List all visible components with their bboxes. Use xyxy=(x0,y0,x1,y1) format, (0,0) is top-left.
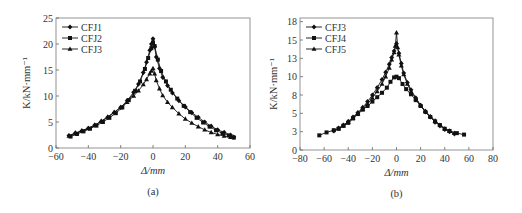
square-marker xyxy=(397,76,401,80)
chart-panel-a: −60−40−2002040600510152025Δ/mmK/kN·mm⁻¹(… xyxy=(21,13,255,199)
x-tick-label: −40 xyxy=(340,153,356,164)
y-tick-label: 0 xyxy=(292,145,297,156)
panel-label: (a) xyxy=(147,186,159,198)
panel-label: (b) xyxy=(390,188,403,200)
triangle-marker xyxy=(154,78,159,82)
y-axis-title: K/kN·mm⁻¹ xyxy=(268,58,279,110)
triangle-marker xyxy=(196,124,201,128)
square-marker xyxy=(156,58,160,62)
legend-item: CFJ3 xyxy=(62,44,102,55)
y-tick-label: 5 xyxy=(48,117,53,128)
x-tick-label: 60 xyxy=(245,151,255,162)
triangle-marker xyxy=(157,86,162,90)
x-tick-label: −20 xyxy=(113,151,129,162)
square-marker xyxy=(146,56,150,60)
legend-label: CFJ3 xyxy=(325,22,346,33)
triangle-marker xyxy=(160,93,165,97)
square-marker xyxy=(388,80,392,84)
y-tick-label: 3 xyxy=(292,126,297,137)
square-marker xyxy=(462,133,466,137)
y-tick-label: 18 xyxy=(287,16,297,27)
legend-label: CFJ2 xyxy=(81,33,102,44)
square-marker xyxy=(151,40,155,44)
y-tick-label: 10 xyxy=(287,71,297,82)
y-tick-label: 10 xyxy=(43,91,53,102)
triangle-marker xyxy=(189,120,194,124)
square-marker xyxy=(380,91,384,95)
square-marker xyxy=(138,79,142,83)
square-marker xyxy=(195,116,199,120)
square-marker xyxy=(317,133,321,137)
series-cfj5 xyxy=(336,30,457,135)
diamond-marker xyxy=(312,24,317,29)
square-marker xyxy=(201,121,205,125)
x-tick-label: −20 xyxy=(365,153,381,164)
square-marker xyxy=(164,79,168,83)
square-marker xyxy=(401,82,405,86)
legend-item: CFJ1 xyxy=(62,22,102,33)
legend-label: CFJ1 xyxy=(81,22,102,33)
x-tick-label: 40 xyxy=(213,151,223,162)
legend-item: CFJ3 xyxy=(306,22,346,33)
x-tick-label: 20 xyxy=(416,153,426,164)
square-marker xyxy=(312,36,316,40)
legend: CFJ3CFJ4CFJ5 xyxy=(306,22,346,55)
triangle-marker xyxy=(151,66,156,70)
x-tick-label: −60 xyxy=(316,153,332,164)
legend-item: CFJ5 xyxy=(306,44,346,55)
x-tick-label: 60 xyxy=(464,153,474,164)
x-tick-label: 40 xyxy=(440,153,450,164)
legend: CFJ1CFJ2CFJ3 xyxy=(62,22,102,55)
x-tick-label: 0 xyxy=(394,153,399,164)
square-marker xyxy=(385,86,389,90)
square-marker xyxy=(214,128,218,132)
x-tick-label: −40 xyxy=(81,151,97,162)
figure: −60−40−2002040600510152025Δ/mmK/kN·mm⁻¹(… xyxy=(0,0,522,213)
y-tick-label: 13 xyxy=(287,53,297,64)
legend-item: CFJ2 xyxy=(62,33,102,44)
legend-label: CFJ3 xyxy=(81,44,102,55)
triangle-marker xyxy=(144,77,149,81)
x-tick-label: 20 xyxy=(180,151,190,162)
y-axis-title: K/kN·mm⁻¹ xyxy=(21,57,32,109)
square-marker xyxy=(332,128,336,132)
y-tick-label: 20 xyxy=(43,39,53,50)
x-tick-label: 0 xyxy=(151,151,156,162)
chart-panel-b: −80−60−40−20020406080035810131518Δ/mmK/k… xyxy=(268,16,498,200)
square-marker xyxy=(182,104,186,108)
y-tick-label: 0 xyxy=(48,143,53,154)
legend-label: CFJ5 xyxy=(325,44,346,55)
square-marker xyxy=(68,36,72,40)
legend-label: CFJ4 xyxy=(325,33,346,44)
square-marker xyxy=(188,110,192,114)
legend-item: CFJ4 xyxy=(306,33,346,44)
square-marker xyxy=(175,97,179,101)
y-tick-label: 15 xyxy=(43,65,53,76)
x-axis-title: Δ/mm xyxy=(140,165,166,176)
square-marker xyxy=(159,69,163,73)
square-marker xyxy=(325,130,329,134)
square-marker xyxy=(232,136,236,140)
diamond-marker xyxy=(68,24,73,29)
x-axis-title: Δ/mm xyxy=(383,167,409,178)
square-marker xyxy=(404,87,408,91)
x-tick-label: 80 xyxy=(488,153,498,164)
square-marker xyxy=(375,95,379,99)
y-tick-label: 5 xyxy=(292,108,297,119)
square-marker xyxy=(169,88,173,92)
square-marker xyxy=(143,67,147,71)
y-tick-label: 15 xyxy=(287,35,297,46)
square-marker xyxy=(153,44,157,48)
triangle-marker xyxy=(394,30,399,34)
square-marker xyxy=(208,125,212,129)
y-tick-label: 25 xyxy=(43,13,53,24)
y-tick-label: 8 xyxy=(292,90,297,101)
